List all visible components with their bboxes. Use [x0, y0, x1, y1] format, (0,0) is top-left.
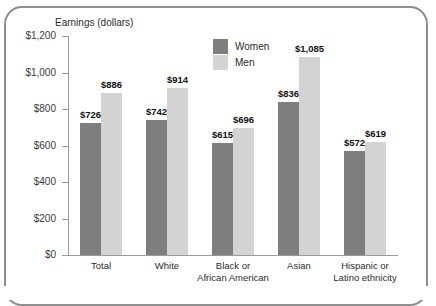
y-axis-tick-label: $0 [0, 250, 56, 260]
y-axis-tick-label: $200 [0, 214, 56, 224]
x-axis-line [68, 255, 398, 256]
bar-value-label: $615 [199, 130, 247, 140]
bar-value-label: $619 [352, 129, 400, 139]
legend-swatch-women-icon [213, 39, 228, 54]
bar-women[interactable] [80, 123, 101, 255]
bar-women[interactable] [278, 102, 299, 255]
y-axis-tick-label: $1,200 [0, 31, 56, 41]
bar-women[interactable] [146, 120, 167, 255]
bar-value-label: $696 [220, 115, 268, 125]
y-axis-tick-label: $400 [0, 177, 56, 187]
bar-men[interactable] [365, 142, 386, 255]
bar-value-label: $742 [133, 107, 181, 117]
border-mask-bottom [0, 286, 436, 300]
x-axis-label: Hispanic or Latino ethnicity [320, 260, 410, 283]
y-axis-tick-label: $1,000 [0, 68, 56, 78]
legend: Women Men [213, 38, 269, 70]
legend-label-men: Men [235, 57, 254, 68]
legend-item-men[interactable]: Men [213, 54, 269, 70]
y-axis-tick-label: $600 [0, 141, 56, 151]
bar-value-label: $836 [265, 89, 313, 99]
bar-value-label: $726 [67, 110, 115, 120]
bar-value-label: $572 [331, 138, 379, 148]
bar-men[interactable] [299, 57, 320, 255]
bar-women[interactable] [212, 143, 233, 255]
legend-item-women[interactable]: Women [213, 38, 269, 54]
bar-men[interactable] [233, 128, 254, 255]
legend-swatch-men-icon [213, 55, 228, 70]
bar-women[interactable] [344, 151, 365, 255]
bar-value-label: $886 [88, 80, 136, 90]
y-axis-tick-label: $800 [0, 104, 56, 114]
y-axis-tick [62, 255, 68, 256]
y-axis-title: Earnings (dollars) [55, 17, 133, 28]
legend-label-women: Women [235, 41, 269, 52]
bar-value-label: $1,085 [286, 44, 334, 54]
bar-value-label: $914 [154, 75, 202, 85]
border-mask-right [430, 40, 436, 300]
